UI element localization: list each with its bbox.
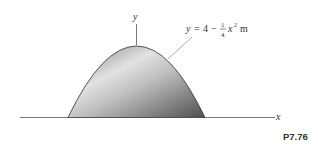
parabolic-area	[68, 46, 205, 118]
svg-text:−: −	[211, 23, 217, 34]
y-axis-label: y	[132, 11, 138, 22]
x-axis-label: x	[275, 111, 281, 122]
leader-line	[168, 37, 192, 59]
diagram-canvas: y x y = 4 − 1 4 x 2 m P7.76	[0, 0, 318, 146]
svg-text:2: 2	[234, 22, 237, 28]
svg-text:x: x	[227, 23, 233, 34]
svg-text:1: 1	[221, 21, 225, 29]
svg-text:m: m	[240, 23, 248, 34]
svg-text:=: =	[194, 23, 200, 34]
figure-label: P7.76	[283, 131, 308, 142]
svg-text:4: 4	[203, 23, 208, 34]
equation: y = 4 − 1 4 x 2 m	[185, 21, 248, 39]
svg-text:y: y	[185, 23, 191, 34]
svg-text:4: 4	[221, 31, 225, 39]
